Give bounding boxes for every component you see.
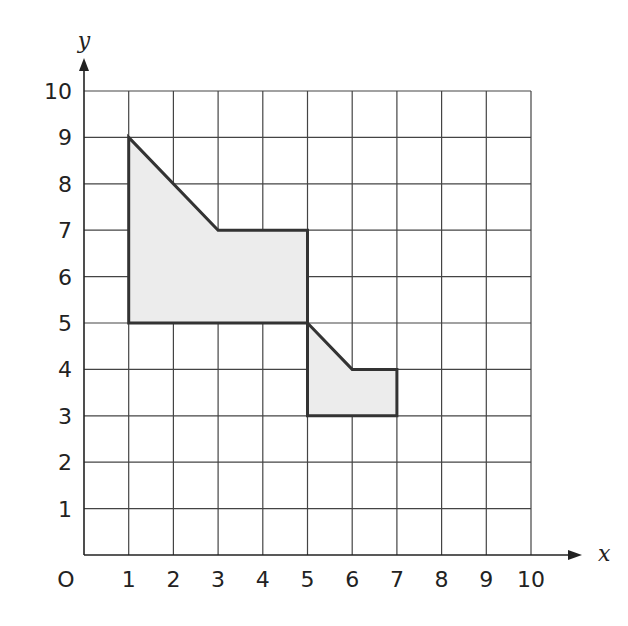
y-tick-label: 9 [58,125,72,150]
origin-label: O [57,567,74,592]
y-tick-label: 7 [58,218,72,243]
y-tick-label: 10 [44,79,72,104]
x-tick-label: 4 [256,567,270,592]
x-tick-label: 6 [345,567,359,592]
x-tick-label: 5 [301,567,315,592]
y-tick-label: 2 [58,450,72,475]
x-tick-label: 1 [122,567,136,592]
x-tick-label: 10 [517,567,545,592]
y-tick-label: 6 [58,265,72,290]
y-tick-label: 4 [58,357,72,382]
x-tick-label: 9 [479,567,493,592]
x-tick-label: 2 [166,567,180,592]
y-tick-label: 5 [58,311,72,336]
x-axis-arrow-icon [568,550,582,560]
y-axis-label: y [77,28,91,53]
x-tick-label: 3 [211,567,225,592]
x-tick-label: 7 [390,567,404,592]
x-axis-label: x [598,541,611,566]
y-axis-arrow-icon [79,58,89,71]
y-tick-label: 3 [58,404,72,429]
y-tick-label: 8 [58,172,72,197]
y-tick-label: 1 [58,497,72,522]
x-tick-label: 8 [435,567,449,592]
coordinate-grid-diagram: 1234567891012345678910Oxy [0,0,628,626]
